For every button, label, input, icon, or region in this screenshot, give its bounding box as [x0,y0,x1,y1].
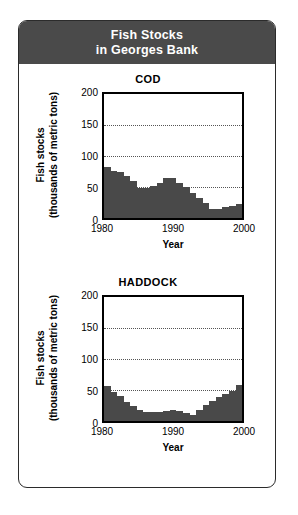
x-tick-1990: 1990 [162,223,184,234]
x-tick-2000: 2000 [233,223,255,234]
plot-area-cod [102,92,244,220]
y-tick-200: 200 [66,290,98,301]
data-bar [236,204,243,218]
fish-stocks-card: Fish Stocks in Georges Bank COD Fish sto… [18,20,276,488]
data-bar [209,209,216,218]
data-bar [150,412,157,421]
y-tick-50: 50 [66,183,98,194]
data-bar [196,198,203,218]
x-axis-ticks-cod: 1980 1990 2000 [102,223,244,237]
y-tick-150: 150 [66,119,98,130]
y-tick-100: 100 [66,354,98,365]
data-bar [176,183,183,218]
y-axis-label-haddock: Fish stocks (thousands of metric tons) [33,294,63,422]
data-bar [130,406,137,421]
data-bar [104,386,111,421]
data-bar [124,176,131,218]
x-axis-label-haddock: Year [102,442,244,453]
data-bar [222,207,229,218]
y-tick-150: 150 [66,322,98,333]
data-bar [104,167,111,218]
header-title-line1: Fish Stocks [111,28,183,43]
data-bar [203,203,210,218]
y-axis-label-line1: Fish stocks [35,127,46,182]
data-bar [196,410,203,421]
data-bar [170,410,177,421]
data-bar [236,385,243,421]
data-bar [117,396,124,421]
data-bar [190,193,197,218]
y-tick-200: 200 [66,87,98,98]
data-series-haddock [104,297,242,421]
data-bar [157,412,164,421]
y-tick-50: 50 [66,386,98,397]
data-bar [222,394,229,421]
chart-title-haddock: HADDOCK [19,276,276,288]
chart-title-cod: COD [19,73,276,85]
chart-panel-cod: COD Fish stocks (thousands of metric ton… [19,73,276,273]
data-bar [176,411,183,421]
data-bar [124,402,131,421]
data-bar [111,392,118,421]
data-bar [190,415,197,421]
data-bar [117,172,124,219]
header-title-line2: in Georges Bank [96,43,198,58]
y-axis-ticks-cod: 200 150 100 50 0 [64,92,98,220]
data-bar [137,410,144,421]
data-bar [157,183,164,218]
data-bar [170,178,177,218]
y-axis-ticks-haddock: 200 150 100 50 0 [64,295,98,423]
y-axis-label-line2: (thousands of metric tons) [48,295,59,421]
data-bar [137,188,144,218]
x-tick-1990: 1990 [162,426,184,437]
chart-panel-haddock: HADDOCK Fish stocks (thousands of metric… [19,276,276,476]
y-tick-100: 100 [66,151,98,162]
data-series-cod [104,94,242,218]
data-bar [163,178,170,218]
x-tick-1980: 1980 [91,223,113,234]
y-axis-label-line1: Fish stocks [35,330,46,385]
data-bar [130,181,137,218]
data-bar [229,206,236,218]
data-bar [163,411,170,421]
data-bar [183,413,190,421]
x-tick-2000: 2000 [233,426,255,437]
data-bar [209,401,216,421]
data-bar [143,188,150,218]
x-tick-1980: 1980 [91,426,113,437]
data-bar [111,171,118,218]
x-axis-ticks-haddock: 1980 1990 2000 [102,426,244,440]
y-axis-label-line2: (thousands of metric tons) [48,92,59,218]
x-axis-label-cod: Year [102,239,244,250]
data-bar [216,209,223,218]
plot-area-haddock [102,295,244,423]
data-bar [229,391,236,421]
data-bar [216,397,223,421]
data-bar [183,187,190,218]
data-bar [143,412,150,421]
data-bar [150,186,157,218]
card-header: Fish Stocks in Georges Bank [19,21,275,64]
data-bar [203,405,210,421]
y-axis-label-cod: Fish stocks (thousands of metric tons) [33,91,63,219]
